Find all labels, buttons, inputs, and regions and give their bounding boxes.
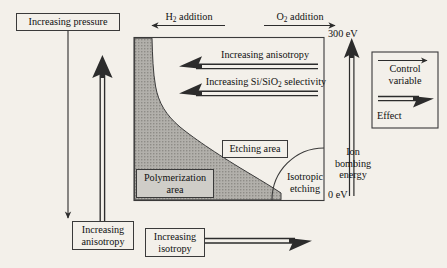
increasing-anisotropy-arrow <box>92 55 112 226</box>
etching-area-label: Etching area <box>222 140 288 158</box>
o2-addition-label: O2 addition <box>262 11 338 24</box>
legend-effect-label: Effect <box>377 110 417 122</box>
increasing-isotropy-line2: isotropy <box>158 243 191 254</box>
legend-control-line1: Control <box>389 63 420 74</box>
inner-selectivity-label: Increasing Si/SiO2 selectivity <box>204 76 328 89</box>
polymerization-area-label: Polymerization area <box>136 169 214 198</box>
isotropic-line2: etching <box>290 183 320 194</box>
inner-anisotropy-label: Increasing anisotropy <box>206 49 324 61</box>
increasing-isotropy-label: Increasing isotropy <box>145 228 205 257</box>
legend-effect-arrow <box>378 97 434 108</box>
h2-addition-label: H2 addition <box>152 11 226 24</box>
axis-top-value: 300 eV <box>328 28 358 40</box>
diagram-canvas: H2 addition O2 addition 300 eV 0 eV Ion … <box>0 0 447 268</box>
legend-control-variable-label: Control variable <box>377 63 433 86</box>
polymerization-line1: Polymerization <box>144 172 206 183</box>
isotropic-line1: Isotropic <box>287 171 323 182</box>
ion-bombing-energy-label: Ion bombing energy <box>327 146 379 181</box>
increasing-anisotropy-line1: Increasing <box>82 224 124 235</box>
increasing-isotropy-line1: Increasing <box>154 231 196 242</box>
polymerization-line2: area <box>167 184 184 195</box>
legend-control-line2: variable <box>389 75 422 86</box>
diagram-vector-layer <box>0 0 447 268</box>
increasing-pressure-label: Increasing pressure <box>16 13 120 31</box>
increasing-anisotropy-label: Increasing anisotropy <box>72 221 134 250</box>
isotropic-etching-label: Isotropic etching <box>285 171 325 194</box>
axis-bottom-value: 0 eV <box>328 189 348 201</box>
ion-bombing-energy-text: Ion bombing energy <box>335 146 371 180</box>
increasing-isotropy-arrow <box>205 239 312 252</box>
increasing-anisotropy-line2: anisotropy <box>81 236 124 247</box>
